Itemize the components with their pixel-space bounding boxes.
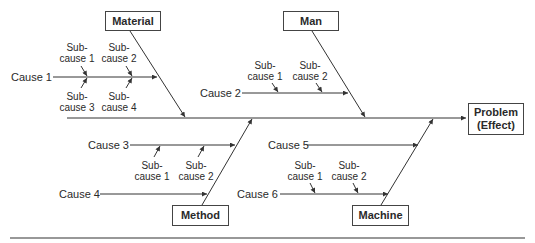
fishbone-lines bbox=[0, 0, 535, 243]
category-method-label: Method bbox=[181, 209, 220, 222]
category-man-label: Man bbox=[300, 15, 322, 28]
cause-5-label: Cause 5 bbox=[268, 139, 309, 151]
effect-label-line2: (Effect) bbox=[477, 119, 515, 132]
cause-6-label: Cause 6 bbox=[237, 188, 278, 200]
c1-subcause-2: Sub-cause 2 bbox=[97, 42, 141, 64]
c3-subcause-1: Sub-cause 1 bbox=[130, 160, 174, 182]
c1-subcause-3: Sub-cause 3 bbox=[55, 91, 99, 113]
category-man-box: Man bbox=[283, 11, 339, 31]
effect-box: Problem (Effect) bbox=[468, 103, 524, 135]
c2-subcause-2: Sub-cause 2 bbox=[288, 60, 332, 82]
c1-subcause-1: Sub-cause 1 bbox=[55, 42, 99, 64]
cause-3-label: Cause 3 bbox=[88, 139, 129, 151]
c1-subcause-4: Sub-cause 4 bbox=[97, 91, 141, 113]
effect-label-line1: Problem bbox=[474, 106, 518, 119]
c6-subcause-1: Sub-cause 1 bbox=[283, 160, 327, 182]
category-material-box: Material bbox=[105, 11, 161, 31]
machine-bone bbox=[381, 119, 433, 205]
category-material-label: Material bbox=[112, 15, 154, 28]
category-machine-label: Machine bbox=[358, 209, 402, 222]
c2-subcause-1: Sub-cause 1 bbox=[243, 60, 287, 82]
category-method-box: Method bbox=[172, 205, 229, 226]
c3-subcause-2: Sub-cause 2 bbox=[174, 160, 218, 182]
cause-4-label: Cause 4 bbox=[59, 188, 100, 200]
cause-1-label: Cause 1 bbox=[11, 71, 52, 83]
cause-2-label: Cause 2 bbox=[200, 87, 241, 99]
category-machine-box: Machine bbox=[352, 205, 409, 226]
c6-subcause-2: Sub-cause 2 bbox=[327, 160, 371, 182]
